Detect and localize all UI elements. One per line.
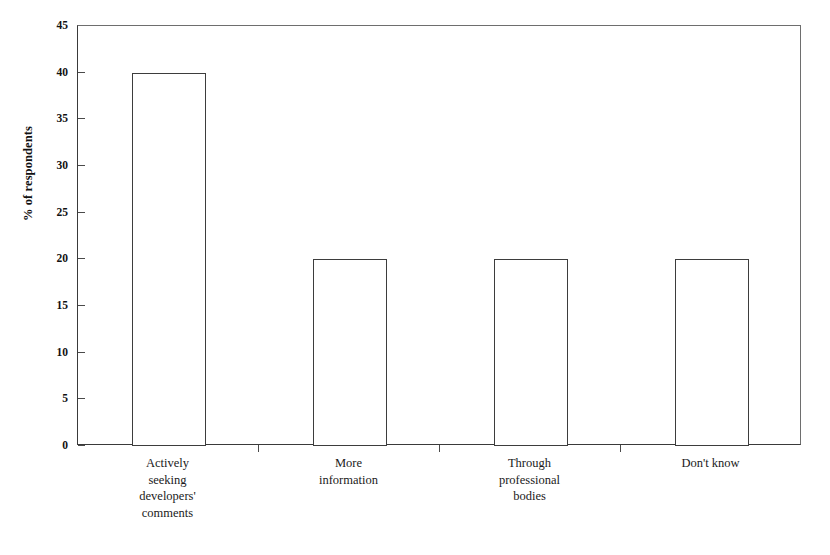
- y-axis-tick-label: 40: [0, 66, 68, 78]
- x-axis-category-label: Throughprofessionalbodies: [439, 455, 620, 505]
- y-axis-tick-label: 30: [0, 159, 68, 171]
- bar: [675, 259, 749, 446]
- y-axis-tick-label: 15: [0, 299, 68, 311]
- bar: [313, 259, 387, 446]
- x-axis-category-label-line: More: [258, 455, 439, 472]
- x-axis-tick-mark: [620, 445, 621, 452]
- y-axis-tick-label: 5: [0, 392, 68, 404]
- y-axis-tick-mark: [78, 445, 85, 446]
- y-axis-tick-label: 25: [0, 206, 68, 218]
- bar: [494, 259, 568, 446]
- y-axis-tick-label: 45: [0, 19, 68, 31]
- x-axis-category-label-line: Actively: [77, 455, 258, 472]
- y-axis-tick-label: 10: [0, 346, 68, 358]
- x-axis-category-label-line: seeking: [77, 472, 258, 489]
- x-axis-category-label-line: Through: [439, 455, 620, 472]
- x-axis-category-label-line: professional: [439, 472, 620, 489]
- bar-chart-figure: % of respondents 051015202530354045 Acti…: [0, 0, 830, 555]
- y-axis-tick-label: 20: [0, 252, 68, 264]
- x-axis-category-label-line: Don't know: [620, 455, 801, 472]
- caption-fragment: [50, 543, 810, 555]
- x-axis-category-label: Don't know: [620, 455, 801, 472]
- x-axis-category-label-line: comments: [77, 505, 258, 522]
- x-axis-category-label: Moreinformation: [258, 455, 439, 488]
- x-axis-category-label: Activelyseekingdevelopers'comments: [77, 455, 258, 521]
- plot-area: [77, 25, 801, 445]
- x-axis-tick-mark: [258, 445, 259, 452]
- x-axis-category-label-line: bodies: [439, 488, 620, 505]
- x-axis-category-label-line: developers': [77, 488, 258, 505]
- bar: [132, 73, 206, 446]
- x-axis-category-label-line: information: [258, 472, 439, 489]
- y-axis-tick-label: 0: [0, 439, 68, 451]
- y-axis-tick-label: 35: [0, 112, 68, 124]
- x-axis-tick-mark: [439, 445, 440, 452]
- y-axis-title: % of respondents: [21, 84, 36, 264]
